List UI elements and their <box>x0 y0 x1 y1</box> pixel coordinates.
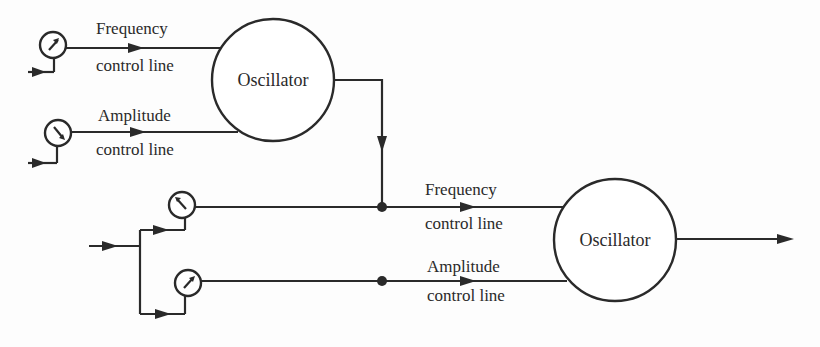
arrow-right-icon <box>777 234 794 244</box>
top-oscillator-output-line <box>334 80 382 207</box>
bottom-oscillator-label: Oscillator <box>580 230 651 250</box>
top-oscillator-label: Oscillator <box>238 70 309 90</box>
top-frequency-knob[interactable] <box>28 32 66 77</box>
top-amplitude-label-2: control line <box>96 140 174 159</box>
bottom-amplitude-label-2: control line <box>427 286 505 305</box>
arrow-right-icon <box>460 276 476 286</box>
bottom-amplitude-knob[interactable] <box>175 270 201 296</box>
top-amplitude-knob[interactable] <box>28 120 71 168</box>
arrow-right-icon <box>153 225 169 235</box>
arrow-right-icon <box>128 43 144 53</box>
top-frequency-label-2: control line <box>96 56 174 75</box>
top-oscillator[interactable]: Oscillator <box>212 19 334 141</box>
arrow-right-icon <box>102 241 118 251</box>
bottom-frequency-label-2: control line <box>425 214 503 233</box>
top-amplitude-label-1: Amplitude <box>98 106 171 125</box>
diagram-canvas: Frequency control line Amplitude control… <box>0 0 820 347</box>
arrow-down-icon <box>377 136 387 152</box>
top-frequency-label-1: Frequency <box>96 19 168 38</box>
junction-dot <box>377 276 387 286</box>
arrow-right-icon <box>32 158 46 168</box>
bottom-input-splitter <box>89 218 185 319</box>
arrow-right-icon <box>155 309 171 319</box>
arrow-right-icon <box>130 127 146 137</box>
bottom-frequency-label-1: Frequency <box>425 180 497 199</box>
bottom-amplitude-label-1: Amplitude <box>427 257 500 276</box>
bottom-oscillator[interactable]: Oscillator <box>554 179 676 301</box>
junction-dot <box>377 202 387 212</box>
arrow-right-icon <box>460 202 476 212</box>
arrow-right-icon <box>32 67 46 77</box>
bottom-frequency-knob[interactable] <box>169 192 195 218</box>
